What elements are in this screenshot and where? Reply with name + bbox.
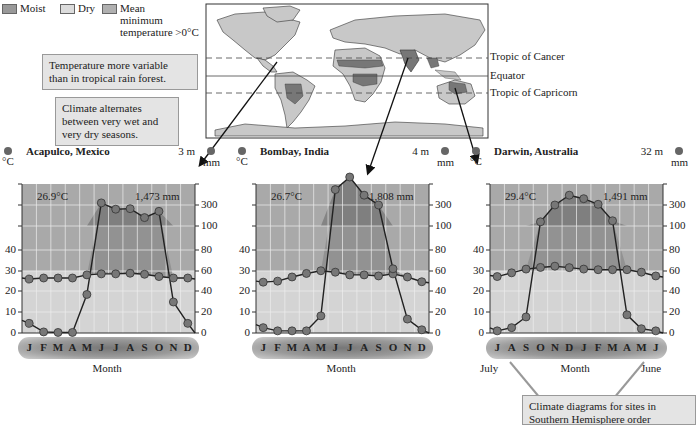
right-unit-label: mm [671,156,688,168]
chart-title: Darwin, Australia [494,145,578,157]
elevation-label: 32 m [633,145,663,157]
month-label: A [623,341,631,353]
x-end-label: June [641,362,661,374]
month-label: S [523,341,529,353]
left-tick-label: 20 [468,284,484,296]
right-tick-label: 60 [669,264,680,276]
month-label: J [494,341,500,353]
right-tick-label: 300 [669,198,686,210]
left-tick-label: 0 [468,326,484,338]
month-label: M [607,341,617,353]
month-label: O [536,341,545,353]
x-axis-label: Month [561,362,590,374]
right-tick-label: 80 [669,243,680,255]
annual-precipitation-value: 1,491 mm [603,190,648,202]
month-label: F [595,341,602,353]
right-tick-label: 40 [669,284,680,296]
right-tick-label: 20 [669,305,680,317]
month-label: J [581,341,587,353]
month-label: M [636,341,646,353]
right-tick-label: 100 [669,219,686,231]
x-start-label: July [480,362,498,374]
left-tick-label: 30 [468,264,484,276]
left-unit-label: °C [470,155,482,167]
temperature-marker-icon [472,147,480,155]
mean-temperature-value: 29.4°C [505,190,536,202]
right-tick-label: 0 [669,326,675,338]
left-tick-label: 10 [468,305,484,317]
month-label: A [508,341,516,353]
month-label: D [565,341,573,353]
precipitation-marker-icon [675,147,683,155]
left-tick-label: 40 [468,243,484,255]
month-label: N [551,341,559,353]
month-label: J [653,341,659,353]
month-strip: JASONDJFMAMJ [486,337,667,359]
